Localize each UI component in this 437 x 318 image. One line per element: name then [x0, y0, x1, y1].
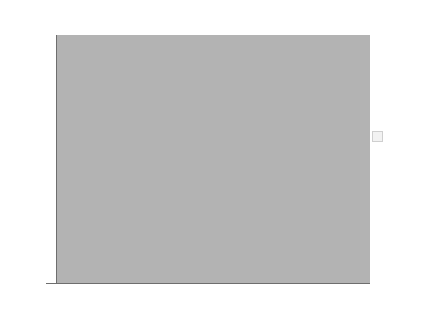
legend-swatch-icon — [372, 131, 383, 142]
survey-summary-bar-chart — [0, 0, 437, 318]
legend[interactable] — [372, 129, 437, 142]
x-axis-line — [46, 283, 370, 284]
bars-layer — [57, 35, 370, 283]
